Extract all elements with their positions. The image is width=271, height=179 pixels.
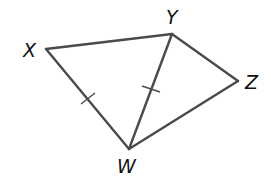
segment-yz [172, 34, 238, 81]
segment-yw [129, 34, 172, 149]
segment-zw [129, 81, 238, 149]
segment-xy [46, 34, 172, 49]
vertex-label-w: W [117, 155, 137, 177]
vertex-label-y: Y [166, 6, 179, 28]
vertex-label-x: X [22, 39, 37, 61]
vertex-label-z: Z [244, 71, 259, 93]
geometry-diagram: X Y Z W [0, 0, 271, 179]
